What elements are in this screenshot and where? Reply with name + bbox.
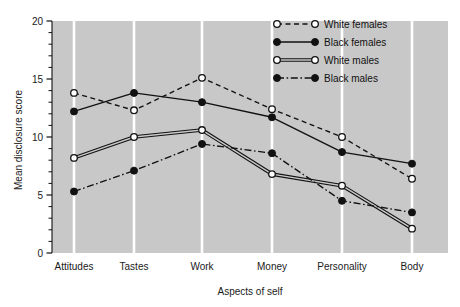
- y-tick-label: 0: [37, 248, 43, 259]
- data-point-white-males-body: [409, 225, 416, 232]
- data-point-black-females-tastes: [131, 89, 138, 96]
- data-point-white-females-tastes: [131, 107, 138, 114]
- data-point-legend-start-black-males: [274, 75, 281, 82]
- legend-label-white-males: White males: [324, 55, 379, 66]
- data-point-white-females-money: [269, 106, 276, 113]
- x-tick-label-work: Work: [190, 261, 214, 272]
- data-point-black-females-body: [409, 160, 416, 167]
- data-point-black-females-personality: [339, 149, 346, 156]
- data-point-legend-end-black-females: [312, 39, 319, 46]
- y-tick-label: 15: [32, 74, 44, 85]
- data-point-white-females-personality: [339, 134, 346, 141]
- data-point-legend-end-black-males: [312, 75, 319, 82]
- y-axis-title: Mean disclosure score: [13, 90, 24, 190]
- data-point-white-males-tastes: [131, 134, 138, 141]
- data-point-legend-end-white-females: [312, 21, 319, 28]
- x-tick-label-body: Body: [401, 261, 424, 272]
- data-point-black-females-work: [199, 99, 206, 106]
- legend-label-black-males: Black males: [324, 73, 378, 84]
- data-point-black-males-work: [199, 140, 206, 147]
- data-point-black-males-money: [269, 150, 276, 157]
- x-tick-label-personality: Personality: [317, 261, 366, 272]
- y-tick-label: 5: [37, 190, 43, 201]
- x-tick-label-tastes: Tastes: [120, 261, 149, 272]
- y-tick-label: 20: [32, 16, 44, 27]
- data-point-legend-start-white-males: [274, 57, 281, 64]
- data-point-black-males-tastes: [131, 167, 138, 174]
- data-point-legend-start-black-females: [274, 39, 281, 46]
- data-point-legend-end-white-males: [312, 57, 319, 64]
- data-point-black-females-attitudes: [71, 108, 78, 115]
- data-point-white-females-attitudes: [71, 90, 78, 97]
- data-point-legend-start-white-females: [274, 21, 281, 28]
- data-point-white-males-personality: [339, 182, 346, 189]
- data-point-white-males-money: [269, 171, 276, 178]
- data-point-black-males-body: [409, 209, 416, 216]
- legend-label-black-females: Black females: [324, 37, 386, 48]
- data-point-black-males-attitudes: [71, 188, 78, 195]
- x-tick-label-money: Money: [257, 261, 287, 272]
- chart-figure: 05101520 AttitudesTastesWorkMoneyPersona…: [0, 0, 460, 307]
- data-point-black-males-personality: [339, 197, 346, 204]
- data-point-white-males-attitudes: [71, 155, 78, 162]
- data-point-black-females-money: [269, 114, 276, 121]
- x-axis-title: Aspects of self: [217, 286, 282, 297]
- plot-area-background: [52, 21, 448, 253]
- line-chart: 05101520 AttitudesTastesWorkMoneyPersona…: [0, 0, 460, 307]
- data-point-white-males-work: [199, 127, 206, 134]
- x-tick-label-attitudes: Attitudes: [55, 261, 94, 272]
- data-point-white-females-work: [199, 75, 206, 82]
- legend-label-white-females: White females: [324, 19, 387, 30]
- y-tick-label: 10: [32, 132, 44, 143]
- data-point-white-females-body: [409, 175, 416, 182]
